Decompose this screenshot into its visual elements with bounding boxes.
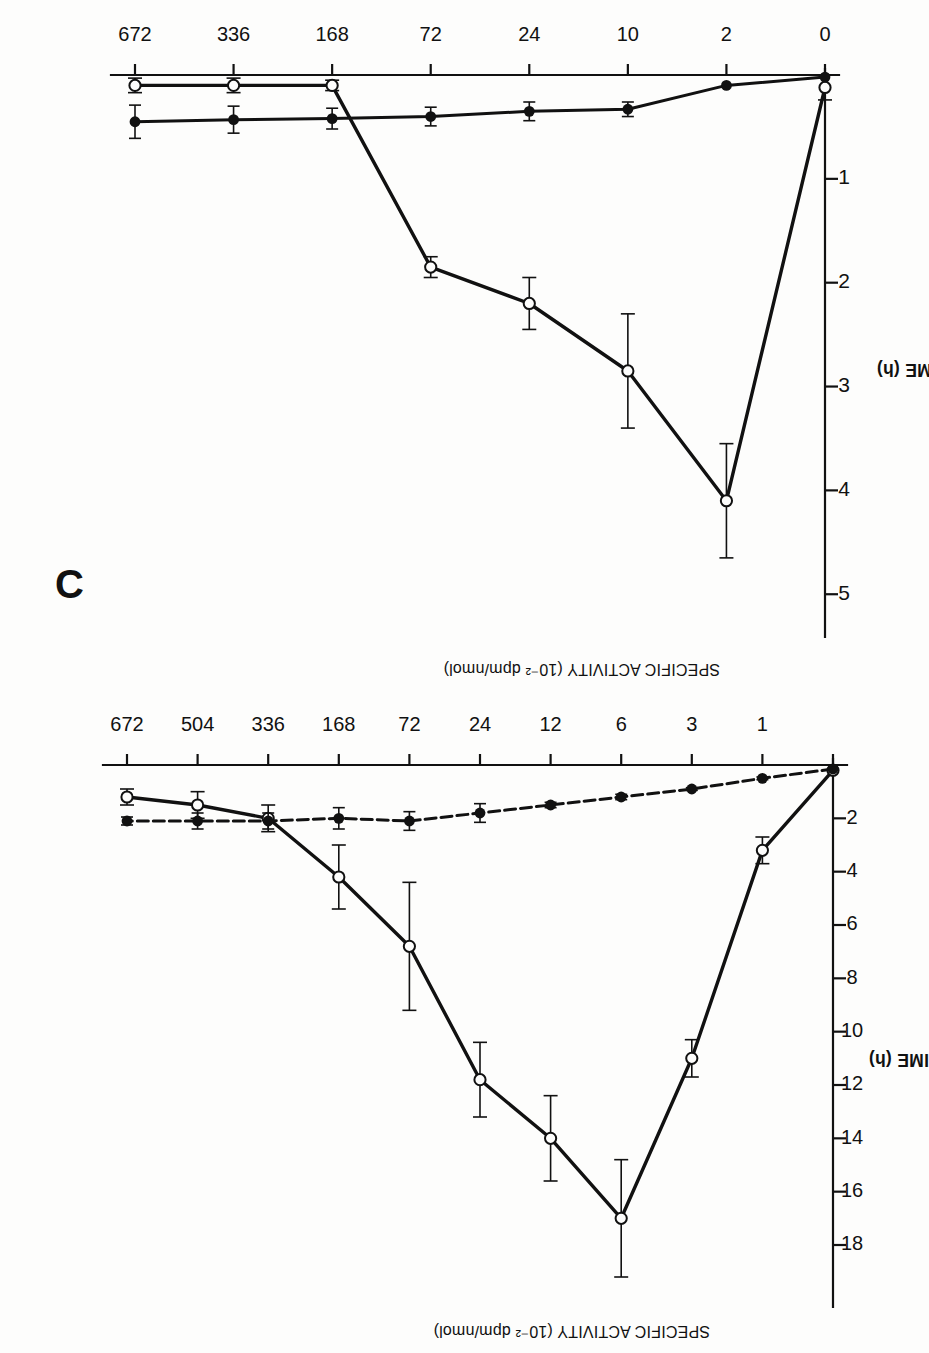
svg-text:672: 672 [110,713,143,735]
panel-c-x-axis-title: TIME (h) [877,359,929,380]
svg-text:6: 6 [616,713,627,735]
svg-text:2: 2 [838,269,850,292]
svg-text:5: 5 [838,581,850,604]
panel-c-label: C [55,562,83,607]
svg-text:168: 168 [322,713,355,735]
svg-text:18: 18 [841,1232,863,1254]
svg-text:72: 72 [398,713,420,735]
svg-text:12: 12 [539,713,561,735]
panel-c-y-axis-title-main: SPECIFIC ACTIVITY [568,661,720,678]
panel-c-y-axis-title-units: (10⁻² dpm/nmol) [443,661,562,678]
svg-text:2: 2 [846,806,857,828]
svg-text:6: 6 [846,912,857,934]
panel-b: 13612247216833650467224681012141618 B TI… [0,690,929,1353]
svg-text:10: 10 [617,23,639,45]
svg-text:336: 336 [252,713,285,735]
panel-c-plot: 0210247216833667212345 [0,0,929,690]
svg-text:16: 16 [841,1179,863,1201]
panel-b-plot: 13612247216833650467224681012141618 [0,690,929,1353]
svg-text:1: 1 [838,165,850,188]
svg-text:12: 12 [841,1072,863,1094]
svg-text:336: 336 [217,23,250,45]
svg-text:72: 72 [420,23,442,45]
svg-text:2: 2 [721,23,732,45]
svg-text:24: 24 [518,23,540,45]
svg-text:1: 1 [757,713,768,735]
svg-text:10: 10 [841,1019,863,1041]
svg-text:672: 672 [118,23,151,45]
svg-text:4: 4 [846,859,857,881]
svg-text:3: 3 [686,713,697,735]
svg-text:504: 504 [181,713,214,735]
svg-text:14: 14 [841,1126,863,1148]
panel-b-y-axis-title-main: SPECIFIC ACTIVITY [558,1323,710,1340]
panel-b-y-axis-title-units: (10⁻² dpm/nmol) [433,1323,552,1340]
panel-b-y-axis-title: SPECIFIC ACTIVITY (10⁻² dpm/nmol) [433,1322,710,1341]
panel-c: 0210247216833667212345 C TIME (h) SPECIF… [0,0,929,690]
svg-text:0: 0 [819,23,830,45]
svg-text:8: 8 [846,966,857,988]
svg-text:24: 24 [469,713,491,735]
figure-page: 0210247216833667212345 C TIME (h) SPECIF… [0,0,929,1353]
svg-text:4: 4 [838,477,850,500]
svg-text:168: 168 [315,23,348,45]
panel-b-x-axis-title: TIME (h) [869,1049,929,1070]
panel-c-y-axis-title: SPECIFIC ACTIVITY (10⁻² dpm/nmol) [443,660,720,679]
